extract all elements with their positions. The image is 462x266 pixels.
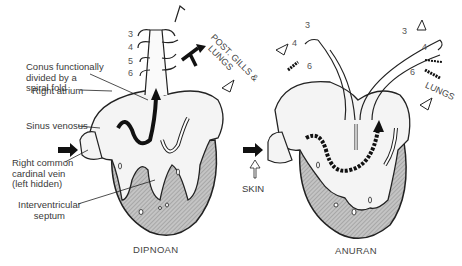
caption-dipnoan: DIPNOAN [133, 244, 178, 255]
label-right-atrium: Right atrium [32, 86, 83, 97]
label-septum: Interventricular septum [18, 200, 81, 221]
label-sinus-venosus: Sinus venosus [26, 121, 88, 132]
anuran-heart [243, 20, 442, 238]
arch-4: 4 [128, 42, 133, 52]
label-cardinal-vein: Right common cardinal vein (left hidden) [12, 158, 73, 190]
arch-left-3: 3 [305, 20, 310, 30]
inflow-arrow-icon [243, 143, 263, 157]
diagram-canvas [0, 0, 462, 266]
inflow-arrow-icon [58, 143, 78, 157]
anuran-atrium [275, 82, 410, 210]
arch-right-3: 3 [402, 26, 407, 36]
arch-left-4: 4 [292, 38, 297, 48]
arch-5: 5 [128, 56, 133, 66]
arch-right-6: 6 [410, 67, 415, 77]
arch-6: 6 [128, 68, 133, 78]
arch-left-6: 6 [307, 61, 312, 71]
caption-anuran: ANURAN [335, 245, 377, 256]
arch-right-4: 4 [422, 42, 427, 52]
arch-3: 3 [128, 29, 133, 39]
label-skin: SKIN [242, 184, 264, 195]
